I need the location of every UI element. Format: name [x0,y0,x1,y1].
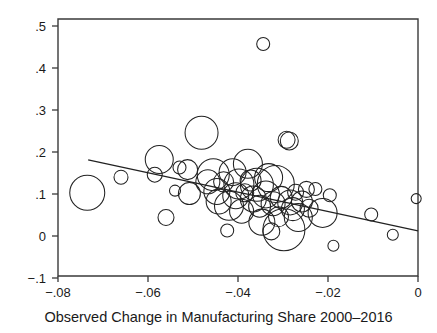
x-axis-tick-labels: −.08−.06−.04−.020 [45,285,421,300]
scatter-bubble [365,208,378,221]
scatter-chart-figure: −.10.1.2.3.4.5 −.08−.06−.04−.020 Observe… [0,0,437,333]
x-tick-label: −.06 [135,285,161,300]
scatter-bubble [221,224,234,237]
x-axis-title: Observed Change in Manufacturing Share 2… [44,309,392,325]
scatter-bubble [70,175,105,210]
chart-svg: −.10.1.2.3.4.5 −.08−.06−.04−.020 Observe… [0,0,437,333]
y-tick-label: .3 [35,103,46,118]
x-tick-label: −.04 [225,285,251,300]
scatter-bubble [158,210,174,226]
x-tick-label: 0 [414,285,421,300]
x-tick-label: −.08 [45,285,71,300]
y-tick-label: .4 [35,61,46,76]
scatter-bubble [257,38,270,51]
y-tick-label: 0 [39,229,46,244]
scatter-bubble [114,170,128,184]
scatter-bubble [178,160,198,180]
scatter-bubble [328,240,339,251]
y-tick-label: −.1 [28,271,46,286]
scatter-bubble [185,116,218,149]
y-tick-label: .5 [35,19,46,34]
plot-axis-frame [58,19,418,276]
scatter-bubble [411,194,421,204]
y-tick-label: .2 [35,145,46,160]
scatter-bubble [263,209,305,251]
x-axis-tick-marks [58,276,418,282]
scatter-bubble [387,229,398,240]
x-tick-label: −.02 [315,285,341,300]
y-tick-label: .1 [35,187,46,202]
scatter-bubble [309,182,322,195]
y-axis-tick-labels: −.10.1.2.3.4.5 [28,19,46,286]
scatter-bubble-series [70,38,421,252]
y-axis-tick-marks [52,26,58,278]
